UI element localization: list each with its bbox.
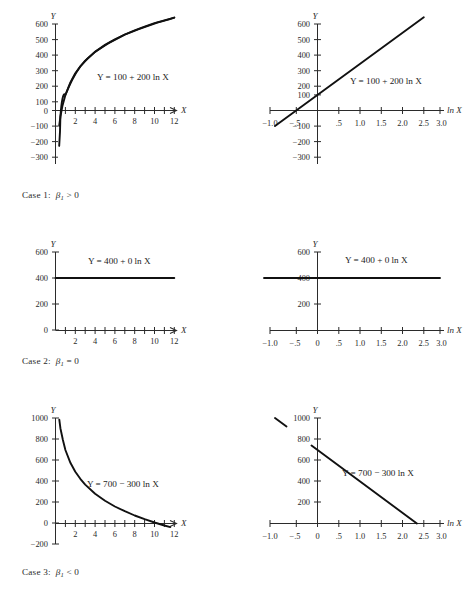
chart-case3-lnx-svg: 1000 800 600 400 200 −1.0 −.5 0 (232, 403, 467, 573)
svg-text:4: 4 (93, 337, 98, 346)
case-2-label: Case 2: β1 = 0 (22, 356, 79, 367)
svg-text:1.5: 1.5 (376, 532, 386, 541)
y-tick-labels: 1000 800 600 400 200 (293, 414, 310, 507)
svg-text:8: 8 (133, 530, 137, 539)
data-line-segment-2 (312, 446, 417, 524)
x-tick-labels: −1.0 −.5 0 .5 1.0 1.5 2.0 2.5 3.0 (262, 532, 446, 541)
svg-text:600: 600 (35, 248, 48, 257)
equation-annotation: Y = 100 + 200 ln X (350, 76, 422, 86)
svg-text:.5: .5 (336, 119, 342, 128)
svg-text:500: 500 (297, 36, 310, 45)
svg-text:12: 12 (170, 337, 178, 346)
x-axis-label: ln X (447, 518, 462, 528)
x-tick-labels: −1.0 −.5 .5 1.0 1.5 2.0 2.5 3.0 (262, 119, 446, 128)
svg-text:600: 600 (297, 20, 310, 29)
x-axis-label: X (180, 325, 187, 335)
svg-text:400: 400 (35, 274, 48, 283)
svg-text:0: 0 (315, 532, 319, 541)
svg-text:8: 8 (133, 117, 137, 126)
svg-text:−.5: −.5 (289, 532, 300, 541)
svg-text:600: 600 (35, 456, 48, 465)
svg-text:1.0: 1.0 (355, 119, 365, 128)
y-axis-label: Y (50, 11, 56, 21)
svg-text:800: 800 (35, 435, 48, 444)
svg-text:1.0: 1.0 (355, 339, 365, 348)
svg-text:2: 2 (73, 117, 77, 126)
x-axis-label: ln X (447, 325, 462, 335)
case-1-text: Case 1: (22, 190, 51, 200)
svg-text:4: 4 (93, 117, 98, 126)
svg-text:400: 400 (297, 477, 310, 486)
case-3-label: Case 3: β1 < 0 (22, 567, 79, 578)
svg-text:600: 600 (297, 456, 310, 465)
svg-text:−100: −100 (31, 122, 48, 131)
y-tick-labels: 600 500 400 300 200 100 0 −100 −200 −300 (31, 20, 48, 162)
svg-text:−1.0: −1.0 (262, 339, 277, 348)
svg-text:200: 200 (297, 82, 310, 91)
svg-text:1.0: 1.0 (355, 532, 365, 541)
svg-text:1.5: 1.5 (376, 119, 386, 128)
case-3-subscript: 1 (60, 571, 64, 578)
chart-case3-lnx: 1000 800 600 400 200 −1.0 −.5 0 (232, 403, 467, 573)
y-tick-labels: 600 400 200 0 (35, 248, 48, 335)
chart-case3-x-svg: 1000 800 600 400 200 0 −200 (0, 403, 235, 573)
svg-text:6: 6 (113, 530, 117, 539)
y-axis-label: Y (312, 405, 318, 415)
svg-text:600: 600 (35, 20, 48, 29)
svg-text:−200: −200 (31, 138, 48, 147)
chart-case2-lnx-svg: 600 400 200 −1.0 −.5 0 .5 1.0 (232, 230, 467, 355)
chart-case2-x-svg: 600 400 200 0 2 4 (0, 230, 235, 355)
svg-text:−.5: −.5 (289, 119, 300, 128)
equation-annotation: Y = 400 + 0 ln X (88, 256, 151, 266)
x-axis-label: X (180, 105, 187, 115)
svg-text:1.5: 1.5 (376, 339, 386, 348)
case-1-subscript: 1 (60, 194, 64, 201)
svg-text:0: 0 (44, 326, 48, 335)
chart-case2-lnx: 600 400 200 −1.0 −.5 0 .5 1.0 (232, 230, 467, 355)
chart-case1-lnx-svg: 600 500 400 300 200 100 −100 −200 −300 (232, 0, 467, 190)
svg-text:2.5: 2.5 (419, 339, 429, 348)
svg-text:4: 4 (93, 530, 98, 539)
case-3-text: Case 3: (22, 567, 51, 577)
svg-text:0: 0 (44, 107, 48, 116)
svg-text:0: 0 (44, 519, 48, 528)
svg-text:300: 300 (297, 67, 310, 76)
chart-case1-x: 600 500 400 300 200 100 0 −100 −200 −300 (0, 0, 235, 190)
svg-text:10: 10 (150, 530, 158, 539)
x-tick-labels: 2 4 6 8 10 12 (73, 117, 178, 126)
svg-text:400: 400 (297, 51, 310, 60)
svg-text:.5: .5 (336, 532, 342, 541)
svg-text:200: 200 (35, 498, 48, 507)
equation-annotation: Y = 700 − 300 ln X (342, 468, 414, 478)
y-tick-labels: 600 500 400 300 200 100 −100 −200 −300 (293, 20, 310, 162)
equation-annotation: Y = 100 + 200 ln X (97, 72, 169, 82)
svg-text:10: 10 (150, 337, 158, 346)
svg-text:6: 6 (113, 337, 117, 346)
svg-text:12: 12 (170, 530, 178, 539)
svg-text:100: 100 (35, 98, 48, 107)
svg-text:200: 200 (35, 82, 48, 91)
svg-text:3.0: 3.0 (436, 532, 446, 541)
svg-text:6: 6 (113, 117, 117, 126)
svg-text:2.0: 2.0 (397, 119, 407, 128)
svg-text:8: 8 (133, 337, 137, 346)
svg-text:1000: 1000 (31, 414, 48, 423)
data-curve (59, 420, 170, 527)
case-1-relation: > 0 (66, 190, 79, 200)
svg-text:3.0: 3.0 (436, 339, 446, 348)
case-2-relation: = 0 (66, 356, 79, 366)
svg-text:1000: 1000 (293, 414, 310, 423)
svg-text:200: 200 (35, 300, 48, 309)
svg-text:.5: .5 (336, 339, 342, 348)
svg-text:2.0: 2.0 (397, 532, 407, 541)
svg-text:500: 500 (35, 36, 48, 45)
svg-text:800: 800 (297, 435, 310, 444)
svg-text:−1.0: −1.0 (262, 532, 277, 541)
svg-text:300: 300 (35, 67, 48, 76)
x-tick-labels: 2 4 6 8 10 12 (73, 530, 178, 539)
x-axis-label: ln X (447, 105, 462, 115)
svg-text:0: 0 (315, 339, 319, 348)
svg-text:400: 400 (35, 477, 48, 486)
svg-text:10: 10 (150, 117, 158, 126)
svg-text:−300: −300 (31, 153, 48, 162)
